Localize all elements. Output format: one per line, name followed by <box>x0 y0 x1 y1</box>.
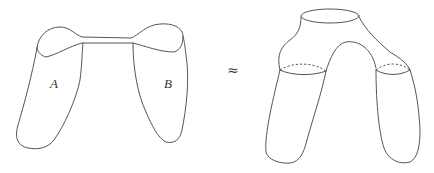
left-leg-outline <box>266 70 326 163</box>
band-bottom-outline <box>37 36 183 57</box>
surface-a-outline <box>16 43 83 149</box>
approx-symbol: ≈ <box>227 62 239 78</box>
diagram-canvas: A B ≈ <box>0 0 434 173</box>
inner-arch <box>326 42 376 71</box>
outer-left-side <box>279 17 301 70</box>
left-cuff-back <box>280 64 326 71</box>
band-top-outline <box>37 24 183 48</box>
label-a: A <box>49 76 58 91</box>
left-figure: A B <box>16 24 187 149</box>
top-boundary-circle <box>301 9 359 23</box>
right-cuff-back <box>376 64 410 70</box>
surface-b-outline <box>133 36 188 143</box>
label-b: B <box>164 76 172 91</box>
outer-right-side <box>359 17 410 70</box>
right-leg-outline <box>376 70 420 163</box>
left-cuff-front <box>280 70 326 75</box>
right-figure <box>266 9 420 163</box>
right-cuff-front <box>376 70 410 75</box>
